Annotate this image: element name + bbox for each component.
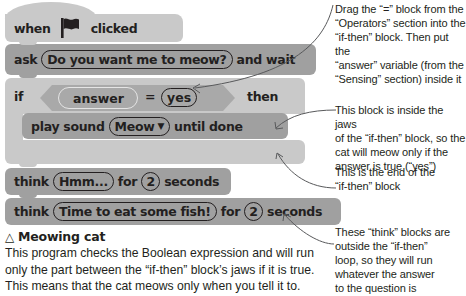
seconds-input[interactable]: 2 bbox=[141, 172, 160, 191]
annotation-inside-jaws: This block is inside the jaws of the “if… bbox=[335, 103, 466, 173]
question-input[interactable]: Do you want me to meow? bbox=[41, 50, 232, 69]
block-connector bbox=[19, 194, 37, 198]
for-label: for bbox=[118, 174, 137, 189]
think-fish-block[interactable]: think Time to eat some fish! for 2 secon… bbox=[5, 198, 341, 225]
seconds-label: seconds bbox=[267, 204, 322, 219]
clicked-label: clicked bbox=[91, 21, 138, 36]
ask-and-wait-block[interactable]: ask Do you want me to meow? and wait bbox=[5, 44, 316, 75]
green-flag-icon bbox=[59, 17, 81, 39]
annotation-end-of-if: This is the end of the “if-then” block bbox=[335, 165, 435, 193]
when-flag-clicked-block[interactable]: when clicked bbox=[5, 14, 183, 42]
annotation-equals-block: Drag the “=” block from the “Operators” … bbox=[335, 2, 466, 86]
for-label: for bbox=[221, 204, 240, 219]
think-text-input[interactable]: Hmm... bbox=[53, 172, 114, 191]
block-connector bbox=[19, 74, 37, 78]
think-label: think bbox=[14, 204, 49, 219]
sound-dropdown[interactable]: Meow ▼ bbox=[109, 117, 170, 136]
play-sound-label: play sound bbox=[31, 119, 105, 134]
sound-name: Meow bbox=[115, 119, 155, 134]
ask-label: ask bbox=[14, 52, 37, 67]
yes-input[interactable]: yes bbox=[161, 88, 197, 107]
seconds-label: seconds bbox=[164, 174, 219, 189]
think-hmm-block[interactable]: think Hmm... for 2 seconds bbox=[5, 168, 231, 195]
caption-body: This program checks the Boolean expressi… bbox=[5, 245, 335, 295]
think-label: think bbox=[14, 174, 49, 189]
if-label: if bbox=[14, 89, 23, 104]
triangle-icon: △ bbox=[5, 230, 14, 244]
block-connector bbox=[19, 41, 37, 45]
then-label: then bbox=[247, 89, 278, 104]
chevron-down-icon: ▼ bbox=[157, 121, 164, 131]
when-label: when bbox=[14, 21, 51, 36]
figure-caption: △ Meowing cat bbox=[5, 229, 105, 244]
equals-sign: = bbox=[145, 89, 155, 104]
if-block-end bbox=[5, 140, 305, 164]
caption-title: Meowing cat bbox=[18, 229, 105, 244]
think-text-input[interactable]: Time to eat some fish! bbox=[53, 202, 217, 221]
and-wait-label: and wait bbox=[237, 52, 295, 67]
annotation-think-blocks: These “think” blocks are outside the “if… bbox=[335, 225, 450, 295]
block-connector bbox=[19, 163, 37, 167]
answer-variable[interactable]: answer bbox=[58, 87, 138, 109]
until-done-label: until done bbox=[174, 119, 243, 134]
seconds-input[interactable]: 2 bbox=[244, 202, 263, 221]
play-sound-until-done-block[interactable]: play sound Meow ▼ until done bbox=[22, 113, 288, 139]
